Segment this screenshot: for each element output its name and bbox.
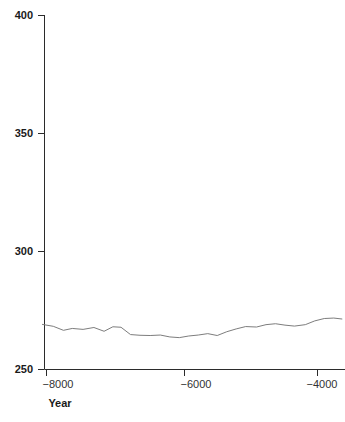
x-tick-label-neg8000: −8000 [43, 378, 74, 390]
x-axis-labels: −8000 −6000 −4000 [43, 378, 338, 390]
y-axis-ticks [38, 16, 45, 370]
chart-container: 400 350 300 250 −8000 −6000 −4000 Year [0, 0, 345, 422]
x-tick-label-neg6000: −6000 [181, 378, 212, 390]
y-tick-label-300: 300 [15, 245, 33, 257]
x-axis-ticks [47, 370, 318, 377]
x-axis-title: Year [48, 397, 72, 409]
y-axis-labels: 400 350 300 250 [15, 9, 33, 375]
x-tick-label-neg4000: −4000 [307, 378, 338, 390]
line-chart: 400 350 300 250 −8000 −6000 −4000 Year [0, 0, 345, 422]
y-tick-label-250: 250 [15, 363, 33, 375]
y-tick-label-400: 400 [15, 9, 33, 21]
y-tick-label-350: 350 [15, 127, 33, 139]
data-series-line [42, 318, 341, 338]
